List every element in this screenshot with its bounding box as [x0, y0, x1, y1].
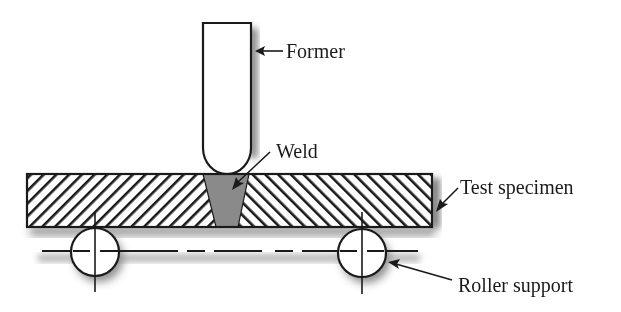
former-label: Former	[286, 40, 345, 62]
former-arrow-icon	[255, 46, 283, 56]
former	[203, 23, 251, 174]
roller-arrow-icon	[388, 259, 452, 280]
test-specimen	[27, 174, 432, 227]
weld-label: Weld	[276, 140, 318, 162]
bend-test-diagram: Former Weld Test specimen Roller support	[0, 0, 621, 312]
test-specimen-label: Test specimen	[460, 176, 574, 199]
roller-support-label: Roller support	[458, 274, 573, 297]
